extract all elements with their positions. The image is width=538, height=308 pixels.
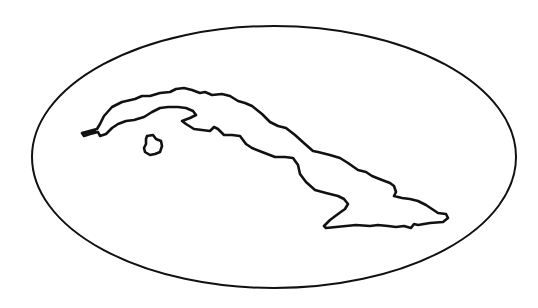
cuba-map [0, 0, 538, 308]
cuba-main-island [82, 88, 448, 228]
map-canvas: Cuba outline [0, 0, 538, 308]
isla-de-la-juventud [144, 135, 162, 155]
